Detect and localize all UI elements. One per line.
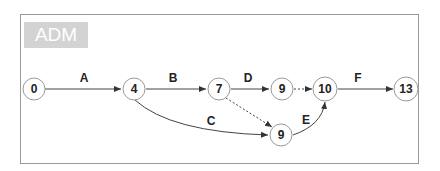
svg-text:10: 10 <box>318 82 332 96</box>
edge-label-D: D <box>244 71 253 85</box>
svg-text:9: 9 <box>279 82 286 96</box>
edge-dummy-7-9 <box>226 98 272 127</box>
node-10: 10 <box>313 77 337 101</box>
svg-text:7: 7 <box>216 82 223 96</box>
svg-text:9: 9 <box>278 128 285 142</box>
node-4: 4 <box>123 78 145 100</box>
edge-A: A <box>45 71 121 89</box>
edge-label-C: C <box>207 114 216 128</box>
edge-label-E: E <box>302 113 310 127</box>
node-0: 0 <box>23 78 45 100</box>
node-7: 7 <box>208 78 230 100</box>
node-9-upper: 9 <box>271 78 293 100</box>
node-9-lower: 9 <box>270 124 292 146</box>
edge-C: C <box>135 100 268 135</box>
svg-text:0: 0 <box>31 82 38 96</box>
svg-text:4: 4 <box>131 82 138 96</box>
edge-D: D <box>231 71 269 89</box>
edge-F: F <box>338 71 393 89</box>
adm-network-diagram: A B D F C E 0 4 7 9 10 <box>0 0 440 171</box>
node-13: 13 <box>394 77 418 101</box>
edge-label-A: A <box>80 71 89 85</box>
edge-label-F: F <box>354 71 361 85</box>
edge-E: E <box>293 102 325 135</box>
edge-label-B: B <box>169 71 178 85</box>
edge-B: B <box>146 71 206 89</box>
svg-text:13: 13 <box>399 82 413 96</box>
